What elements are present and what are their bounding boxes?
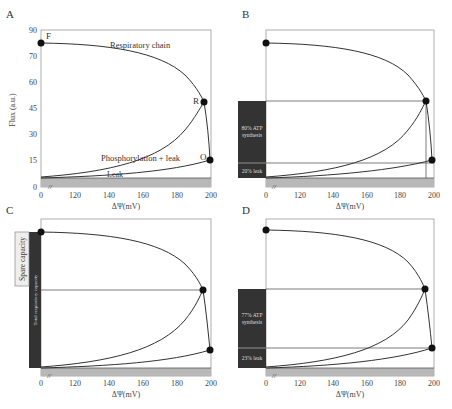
x-tick: 120 [294, 379, 306, 388]
leak-band [266, 178, 434, 187]
respiratory-chain-curve [41, 232, 210, 350]
figure: A 0 15 30 45 60 70 90 Flux (a.u.) 0 120 … [0, 0, 452, 409]
x-tick: 160 [137, 379, 149, 388]
point-f [263, 227, 270, 234]
bar-label-atp: 80% ATP [242, 125, 263, 131]
point-r [423, 98, 430, 105]
bar-label-leak: 20% leak [242, 168, 263, 174]
point-o [429, 345, 436, 352]
point-r [200, 287, 207, 294]
x-tick: 120 [69, 379, 81, 388]
phosphorylation-leak-curve [266, 101, 426, 177]
leak-band [41, 178, 211, 187]
x-tick: 160 [361, 191, 373, 200]
panel-b: B 80% ATP synthesis 20% leak 0 120 140 1… [238, 8, 440, 211]
respiratory-chain-curve [41, 43, 210, 160]
leak-curve [41, 350, 210, 368]
x-tick: 160 [137, 191, 149, 200]
x-axis-ticks: 0 120 140 160 180 200 [264, 379, 440, 388]
panel-c: C Spare capacity Total respiratory capac… [6, 204, 217, 399]
x-tick: 180 [171, 191, 183, 200]
x-tick: 0 [39, 379, 43, 388]
x-tick: 180 [171, 379, 183, 388]
y-axis-ticks: 0 15 30 45 60 70 90 [29, 26, 37, 192]
bar-label-atp: 77% ATP [242, 312, 263, 318]
total-capacity-label: Total respiratory capacity [33, 274, 38, 326]
y-axis-label: Flux (a.u.) [8, 93, 17, 127]
x-axis-ticks: 0 120 140 160 180 200 [39, 379, 217, 388]
x-tick: 200 [205, 379, 217, 388]
x-tick: 140 [103, 379, 115, 388]
leak-band [266, 368, 434, 376]
panel-a: A 0 15 30 45 60 70 90 Flux (a.u.) 0 120 … [6, 8, 217, 211]
phosphorylation-leak-curve [41, 102, 204, 177]
panel-d: D 77% ATP synthesis 23% leak 0 120 140 1… [238, 204, 440, 399]
x-tick: 0 [39, 191, 43, 200]
x-tick: 0 [264, 379, 268, 388]
point-f [38, 229, 45, 236]
y-tick: 45 [29, 104, 37, 113]
x-tick: 0 [264, 191, 268, 200]
x-axis-label: ΔΨ(mV) [336, 202, 365, 211]
panel-letter: C [6, 204, 13, 216]
bar-label-leak: 23% leak [242, 355, 263, 361]
label-r: R [193, 96, 199, 106]
plot-frame [41, 219, 211, 376]
x-axis-label: ΔΨ(mV) [112, 202, 141, 211]
x-tick: 120 [69, 191, 81, 200]
point-r [201, 99, 208, 106]
panel-letter: A [6, 8, 14, 20]
x-tick: 200 [428, 379, 440, 388]
y-tick: 0 [33, 183, 37, 192]
x-tick: 200 [428, 191, 440, 200]
label-leak: Leak [107, 170, 123, 179]
spare-capacity-label: Spare capacity [18, 237, 27, 281]
label-phosphorylation-leak: Phosphorylation + leak [101, 153, 181, 163]
label-o: O [200, 152, 207, 162]
x-tick: 140 [103, 191, 115, 200]
panel-letter: B [242, 8, 249, 20]
x-tick: 140 [327, 191, 339, 200]
point-o [207, 347, 214, 354]
x-tick: 180 [394, 379, 406, 388]
y-tick: 90 [29, 26, 37, 35]
plot-frame [266, 219, 434, 376]
bar-label-synthesis: synthesis [242, 132, 262, 138]
y-tick: 70 [29, 52, 37, 61]
x-tick: 180 [394, 191, 406, 200]
x-axis-label: ΔΨ(mV) [336, 390, 365, 399]
x-axis-label: ΔΨ(mV) [112, 390, 141, 399]
y-tick: 30 [29, 130, 37, 139]
bar-label-synthesis: synthesis [242, 319, 262, 325]
point-f [38, 40, 45, 47]
point-o [207, 157, 214, 164]
label-f: F [46, 31, 51, 41]
phosphorylation-leak-curve [41, 290, 203, 367]
plot-frame [266, 30, 434, 187]
x-tick: 140 [327, 379, 339, 388]
point-f [263, 40, 270, 47]
label-respiratory-chain: Respiratory chain [110, 40, 171, 50]
x-axis-ticks: 0 120 140 160 180 200 [264, 191, 440, 200]
panel-letter: D [242, 204, 250, 216]
y-tick: 15 [29, 156, 37, 165]
point-r [422, 286, 429, 293]
x-tick: 200 [205, 191, 217, 200]
respiratory-chain-curve [266, 43, 432, 160]
x-tick: 160 [361, 379, 373, 388]
leak-band [41, 368, 211, 376]
x-tick: 120 [294, 191, 306, 200]
point-o [429, 157, 436, 164]
x-axis-ticks: 0 120 140 160 180 200 [39, 191, 217, 200]
y-tick: 60 [29, 78, 37, 87]
